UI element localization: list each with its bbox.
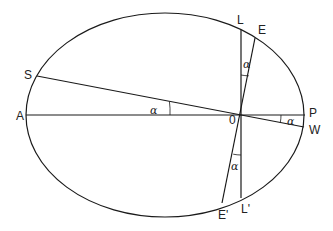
angle-arc-SOA bbox=[169, 101, 170, 115]
label-L: L bbox=[237, 13, 244, 27]
alpha-label-SOA: α bbox=[150, 104, 158, 117]
angle-arc-POW bbox=[280, 115, 281, 123]
label-A: A bbox=[16, 109, 24, 123]
label-L-prime: L' bbox=[241, 202, 250, 216]
alpha-label-L-prime-OE-prime: α bbox=[231, 160, 239, 173]
line-S-W bbox=[37, 76, 304, 127]
alpha-label-POW: α bbox=[287, 115, 295, 128]
angle-arc-L-prime-OE-prime bbox=[233, 154, 241, 155]
label-W: W bbox=[309, 123, 321, 137]
label-P: P bbox=[309, 106, 317, 120]
label-O: 0 bbox=[229, 113, 236, 127]
label-S: S bbox=[24, 68, 32, 82]
label-E-prime: E' bbox=[218, 208, 228, 222]
label-E: E bbox=[258, 23, 266, 37]
alpha-label-LOE: α bbox=[243, 58, 251, 71]
ellipse-diagram: A P W L E S 0 L' E' α α α α bbox=[0, 0, 333, 231]
